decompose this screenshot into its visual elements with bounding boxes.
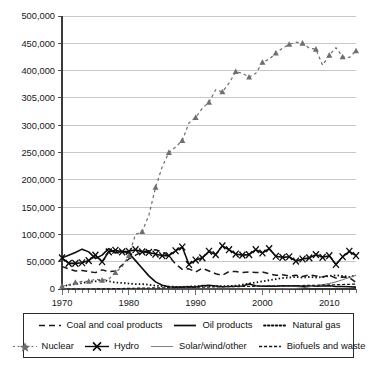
thin-line-icon [149,341,175,352]
data-point-marker [72,279,78,285]
y-tick-label: 450,000 [21,39,55,49]
series-line-natural-gas [62,275,356,286]
data-point-marker [340,253,346,260]
legend-label-solar: Solar/wind/other [179,341,247,350]
y-tick-label: 300,000 [21,121,55,131]
x-tick-label: 1970 [52,298,73,308]
legend-entry-hydro: Hydro [84,341,139,352]
data-point-marker [233,68,239,74]
x-tick-label: 2010 [319,298,340,308]
y-tick-label: 50,000 [27,257,55,267]
data-point-marker [346,248,352,255]
data-point-marker [213,251,219,258]
data-point-marker [226,246,232,253]
legend-label-biofuels: Biofuels and waste [287,341,366,350]
data-point-marker [246,74,252,80]
x-marker-line-icon [84,341,110,352]
x-tick-label: 2000 [252,298,273,308]
solid-line-icon [172,320,198,331]
y-tick-label: 0 [50,284,55,294]
legend-label-coal: Coal and coal products [67,320,163,329]
legend-label-nuclear: Nuclear [42,341,74,350]
star-marker-line-icon [12,341,38,352]
data-point-marker [179,244,185,251]
data-point-marker [206,248,212,255]
data-point-marker [219,242,225,249]
data-point-marker [353,48,359,54]
data-point-marker [353,252,359,259]
x-axis-labels-group: 19701980199020002010 [52,298,340,308]
y-tick-label: 100,000 [21,230,55,240]
legend-row-1: Coal and coal products Oil products Natu… [24,315,353,336]
legend-entry-nuclear: Nuclear [12,341,74,352]
y-tick-label: 150,000 [21,203,55,213]
chart-legend: Coal and coal products Oil products Natu… [23,313,354,358]
data-point-marker [266,245,272,252]
x-tick-label: 1990 [185,298,206,308]
data-point-marker [273,50,279,56]
x-axis-minor-ticks-group [62,289,356,295]
data-point-marker [173,247,179,254]
y-axis-labels-group: 050,000100,000150,000200,000250,000300,0… [21,11,55,294]
data-point-marker [259,250,265,257]
y-tick-label: 200,000 [21,175,55,185]
chart-container: 050,000100,000150,000200,000250,000300,0… [0,0,377,369]
legend-entry-coal: Coal and coal products [37,320,163,331]
series-markers-group [59,40,359,289]
legend-entry-natural-gas: Natural gas [262,320,340,331]
legend-label-natural-gas: Natural gas [292,320,340,329]
legend-label-hydro: Hydro [114,341,139,350]
legend-entry-biofuels: Biofuels and waste [257,341,366,352]
gridlines-group [62,16,356,262]
data-point-marker [206,99,212,105]
y-tick-label: 250,000 [21,148,55,158]
dotted-line-icon [262,320,288,331]
legend-label-oil: Oil products [202,320,252,329]
legend-row-2: Nuclear Hydro Solar/wind/other [24,336,353,357]
data-point-marker [179,137,185,143]
dash-dot-line-icon [257,341,283,352]
data-point-marker [153,184,159,190]
data-point-marker [253,246,259,253]
line-chart-plot: 050,000100,000150,000200,000250,000300,0… [0,0,377,310]
x-tick-label: 1980 [118,298,139,308]
y-tick-label: 500,000 [21,11,55,21]
dashed-line-icon [37,320,63,331]
legend-entry-solar: Solar/wind/other [149,341,247,352]
y-tick-label: 305,000 [21,93,55,103]
legend-entry-oil: Oil products [172,320,252,331]
y-tick-label: 400,000 [21,66,55,76]
data-point-marker [139,228,145,234]
data-point-marker [259,59,265,65]
